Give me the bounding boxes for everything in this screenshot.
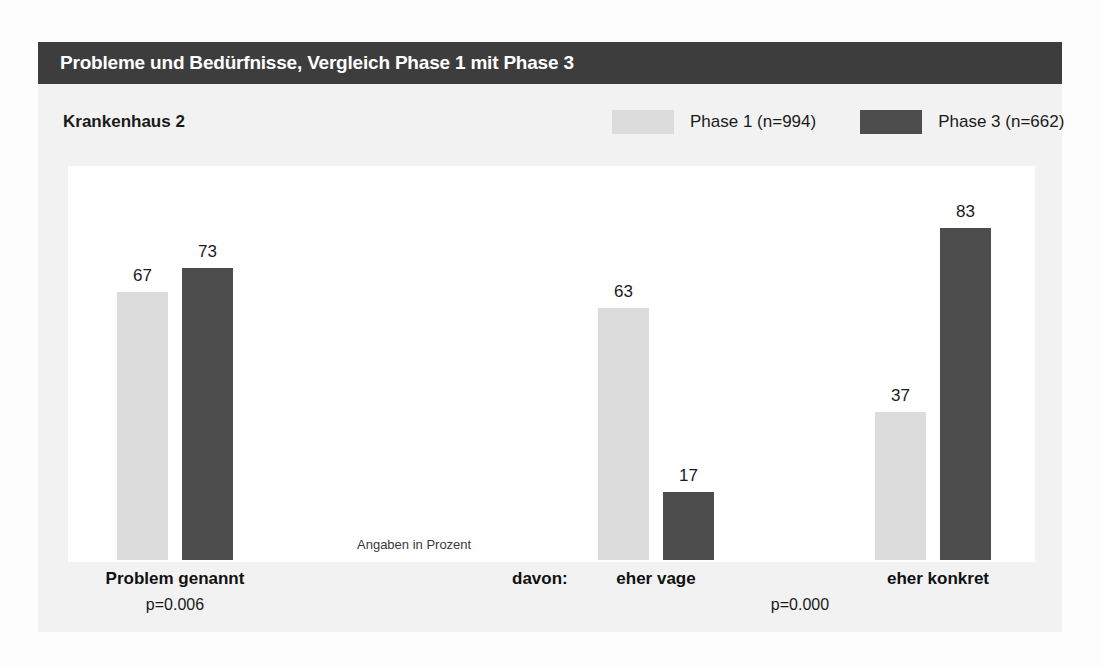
bar-eher-vage-phase-3 — [663, 492, 714, 560]
bar-value-problem-genannt-phase-3: 73 — [182, 242, 233, 262]
category-label-problem-genannt: Problem genannt — [90, 569, 260, 589]
bar-eher-vage-phase-1 — [598, 308, 649, 560]
bar-value-eher-vage-phase-1: 63 — [598, 282, 649, 302]
bar-eher-konkret-phase-3 — [940, 228, 991, 560]
category-label-eher-vage: eher vage — [581, 569, 731, 589]
bar-problem-genannt-phase-3 — [182, 268, 233, 560]
category-prefix-davon: davon: — [512, 569, 568, 589]
bar-problem-genannt-phase-1 — [117, 292, 168, 560]
bar-eher-konkret-phase-1 — [875, 412, 926, 560]
chart-figure: Probleme und Bedürfnisse, Vergleich Phas… — [0, 0, 1101, 667]
bars-layer: 67 73 63 17 37 83 — [0, 0, 1101, 667]
chart-note: Angaben in Prozent — [357, 537, 471, 552]
bar-value-eher-konkret-phase-1: 37 — [875, 386, 926, 406]
pvalue-vage-konkret: p=0.000 — [715, 596, 885, 614]
bar-value-eher-konkret-phase-3: 83 — [940, 202, 991, 222]
bar-value-problem-genannt-phase-1: 67 — [117, 266, 168, 286]
category-label-eher-konkret: eher konkret — [858, 569, 1018, 589]
pvalue-problem-genannt: p=0.006 — [90, 596, 260, 614]
bar-value-eher-vage-phase-3: 17 — [663, 466, 714, 486]
